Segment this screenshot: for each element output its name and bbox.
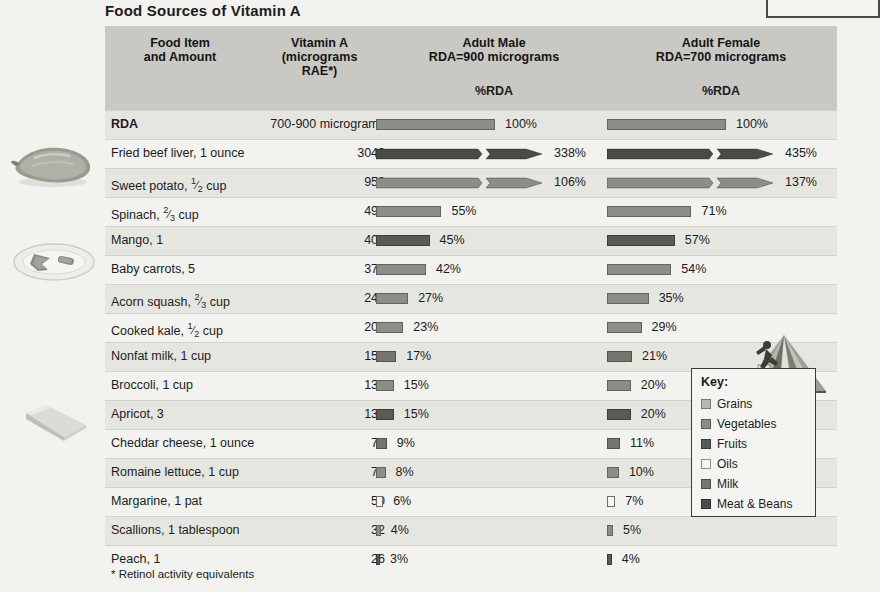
- male-percent-label: 55%: [451, 197, 476, 226]
- legend-key-box: Key: Grains Vegetables Fruits Oils Milk …: [691, 368, 816, 517]
- male-bar: [376, 525, 381, 536]
- male-percent-label: 8%: [396, 458, 414, 487]
- female-bar: [607, 293, 649, 304]
- male-bar: [376, 235, 430, 246]
- legend-swatch-milk: [701, 479, 711, 489]
- cell-food-item: Cheddar cheese, 1 ounce: [111, 429, 254, 458]
- cell-vitamin-a-amount: 138: [245, 371, 385, 400]
- female-percent-label: 4%: [622, 545, 640, 574]
- cell-vitamin-a-amount: 3042: [245, 139, 385, 168]
- cell-vitamin-a-amount: 50: [245, 487, 385, 516]
- female-bar: [607, 322, 642, 333]
- female-broken-bar: [607, 175, 779, 191]
- male-bar: [376, 467, 386, 478]
- female-bar: [607, 496, 615, 507]
- legend-item-oils: Oils: [701, 457, 738, 475]
- male-percent-label: 15%: [404, 400, 429, 429]
- row-divider: [105, 545, 837, 546]
- female-bar: [607, 554, 612, 565]
- cell-vitamin-a-amount: 72: [245, 458, 385, 487]
- male-percent-label: 23%: [413, 313, 438, 342]
- cell-vitamin-a-amount: 958: [245, 168, 385, 197]
- male-bar: [376, 409, 394, 420]
- legend-label-fruits: Fruits: [717, 437, 747, 451]
- column-header-adult-female: Adult Female RDA=700 micrograms: [605, 36, 837, 64]
- legend-swatch-meat-beans: [701, 499, 711, 509]
- column-header-male-pct-rda: %RDA: [383, 84, 605, 98]
- sweet-potato-photo: [10, 140, 96, 190]
- cell-vitamin-a-amount: 494: [245, 197, 385, 226]
- column-header-vitamin-a: Vitamin A (micrograms RAE*): [257, 36, 382, 78]
- legend-item-milk: Milk: [701, 477, 738, 495]
- cell-food-item: Scallions, 1 tablespoon: [111, 516, 240, 545]
- female-bar: [607, 264, 671, 275]
- cell-vitamin-a-amount: 32: [245, 516, 385, 545]
- cell-vitamin-a-amount: 402: [245, 226, 385, 255]
- legend-label-milk: Milk: [717, 477, 738, 491]
- cell-food-item: Broccoli, 1 cup: [111, 371, 193, 400]
- column-header-food-item: Food Item and Amount: [105, 36, 255, 64]
- female-percent-label: 435%: [785, 139, 817, 168]
- female-percent-label: 100%: [736, 110, 768, 139]
- cell-food-item: Nonfat milk, 1 cup: [111, 342, 211, 371]
- legend-swatch-grains: [701, 399, 711, 409]
- male-bar: [376, 380, 394, 391]
- legend-label-grains: Grains: [717, 397, 752, 411]
- legend-label-meat-beans: Meat & Beans: [717, 497, 792, 511]
- cell-food-item: Fried beef liver, 1 ounce: [111, 139, 244, 168]
- table-row: Mango, 140245%57%: [105, 226, 837, 255]
- table-row: Scallions, 1 tablespoon324%5%: [105, 516, 837, 545]
- female-percent-label: 71%: [701, 197, 726, 226]
- carrots-plate-photo: [12, 240, 96, 282]
- male-broken-bar: [376, 146, 548, 162]
- column-header-female-pct-rda: %RDA: [605, 84, 837, 98]
- male-percent-label: 4%: [391, 516, 409, 545]
- cell-vitamin-a-amount: 244: [245, 284, 385, 313]
- cell-food-item: Cooked kale, 1⁄2 cup: [111, 313, 223, 342]
- female-bar: [607, 525, 613, 536]
- top-right-clipped-box: [766, 0, 880, 18]
- column-header-adult-male: Adult Male RDA=900 micrograms: [383, 36, 605, 64]
- female-percent-label: 10%: [629, 458, 654, 487]
- male-percent-label: 17%: [406, 342, 431, 371]
- female-bar: [607, 438, 620, 449]
- legend-item-fruits: Fruits: [701, 437, 747, 455]
- female-percent-label: 20%: [641, 371, 666, 400]
- legend-swatch-oils: [701, 459, 711, 469]
- row-divider: [105, 255, 837, 256]
- footnote: * Retinol activity equivalents: [111, 568, 254, 580]
- cell-food-item: Sweet potato, 1⁄2 cup: [111, 168, 226, 197]
- female-bar: [607, 409, 631, 420]
- cell-food-item: Apricot, 3: [111, 400, 164, 429]
- male-bar: [376, 264, 426, 275]
- female-percent-label: 29%: [652, 313, 677, 342]
- female-percent-label: 11%: [630, 429, 654, 458]
- row-divider: [105, 226, 837, 227]
- female-bar: [607, 351, 632, 362]
- male-bar: [376, 438, 387, 449]
- male-broken-bar: [376, 175, 548, 191]
- male-bar: [376, 206, 441, 217]
- male-percent-label: 27%: [418, 284, 443, 313]
- cell-vitamin-a-amount: 137: [245, 400, 385, 429]
- male-percent-label: 6%: [393, 487, 411, 516]
- legend-label-vegetables: Vegetables: [717, 417, 776, 431]
- female-percent-label: 54%: [681, 255, 706, 284]
- female-bar: [607, 235, 675, 246]
- female-bar: [607, 467, 619, 478]
- female-percent-label: 5%: [623, 516, 641, 545]
- male-bar: [376, 496, 383, 507]
- female-percent-label: 35%: [659, 284, 684, 313]
- table-header: Food Item and Amount Vitamin A (microgra…: [105, 26, 837, 110]
- male-percent-label: 9%: [397, 429, 415, 458]
- table-row: Acorn squash, 2⁄3 cup24427%35%: [105, 284, 837, 313]
- legend-label-oils: Oils: [717, 457, 738, 471]
- male-percent-label: 106%: [554, 168, 586, 197]
- table-row: Fried beef liver, 1 ounce3042338%435%: [105, 139, 837, 168]
- male-bar: [376, 554, 380, 565]
- male-percent-label: 15%: [404, 371, 429, 400]
- male-bar: [376, 119, 495, 130]
- cell-food-item: Mango, 1: [111, 226, 163, 255]
- cell-vitamin-a-amount: 150: [245, 342, 385, 371]
- cell-food-item: Acorn squash, 2⁄3 cup: [111, 284, 230, 313]
